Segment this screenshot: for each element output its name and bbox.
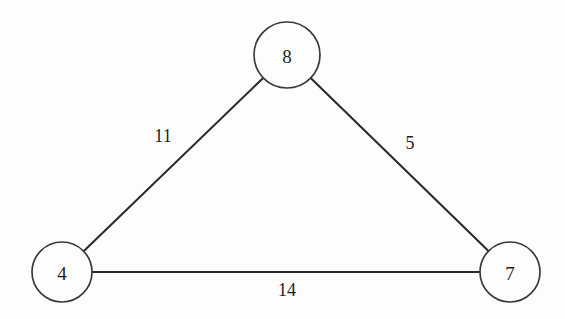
edge-group xyxy=(84,78,489,272)
edge-weight-label-4-8: 11 xyxy=(154,126,171,146)
edge-label-group: 11 5 14 xyxy=(154,126,414,300)
node-label-4: 4 xyxy=(57,263,67,284)
node-label-8: 8 xyxy=(282,46,292,67)
graph-canvas: 11 5 14 8 4 7 xyxy=(0,0,565,319)
edge-4-8[interactable] xyxy=(84,78,264,251)
node-8[interactable]: 8 xyxy=(254,22,320,88)
edge-8-7[interactable] xyxy=(311,78,489,251)
edge-weight-label-8-7: 5 xyxy=(406,133,415,153)
edge-weight-label-4-7: 14 xyxy=(278,280,296,300)
node-label-7: 7 xyxy=(505,263,515,284)
weighted-graph-figure: 11 5 14 8 4 7 xyxy=(0,0,565,319)
node-4[interactable]: 4 xyxy=(32,242,92,302)
node-group: 8 4 7 xyxy=(32,22,540,302)
node-7[interactable]: 7 xyxy=(480,242,540,302)
